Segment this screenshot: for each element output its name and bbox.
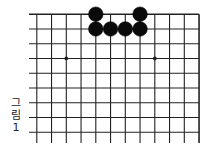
star-point — [64, 57, 68, 61]
go-board — [0, 0, 213, 159]
black-stone — [89, 22, 104, 37]
black-stone — [89, 7, 104, 22]
black-stone — [118, 22, 133, 37]
black-stone — [133, 7, 148, 22]
figure-caption: 그 림 1 — [9, 98, 23, 134]
black-stone — [103, 22, 118, 37]
stones — [89, 7, 148, 36]
caption-char-3: 1 — [9, 122, 23, 134]
star-point — [153, 57, 157, 61]
black-stone — [133, 22, 148, 37]
